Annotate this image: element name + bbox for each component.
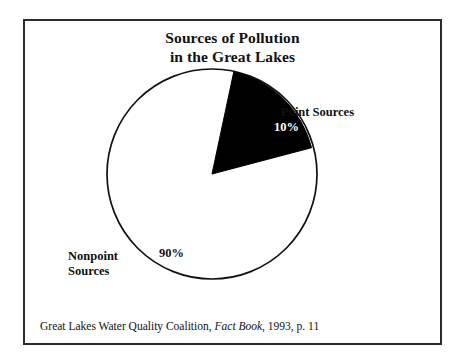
pie-label-nonpoint-sources: Nonpoint Sources [68,249,118,279]
source-citation: Great Lakes Water Quality Coalition, Fac… [40,320,319,332]
pie-chart-svg [105,67,319,281]
source-publication-title: Fact Book [215,320,263,332]
pie-label-nonpoint-line-1: Nonpoint [68,249,118,264]
pie-value-nonpoint-sources: 90% [159,246,184,261]
source-citation-tail: , 1993, p. 11 [262,320,319,332]
pie-label-nonpoint-line-2: Sources [68,264,118,279]
source-organization: Great Lakes Water Quality Coalition, [40,320,212,332]
figure-frame: Sources of Pollution in the Great Lakes … [23,19,442,345]
pie-label-point-sources: Point Sources [281,105,354,120]
pie-value-point-sources: 10% [274,120,299,135]
pie-chart: 10% 90% Point Sources Nonpoint Sources [25,21,444,347]
